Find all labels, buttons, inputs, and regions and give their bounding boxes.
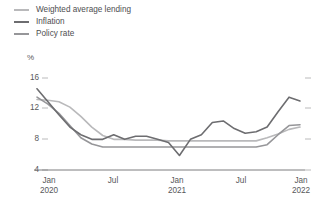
interest-rate-chart: Weighted average lending Inflation Polic… <box>0 0 324 205</box>
series-line-weighted-average-lending <box>37 99 300 140</box>
plot-area <box>0 0 324 205</box>
y-axis-ticks-right <box>305 78 311 170</box>
y-axis-ticks-left <box>42 78 48 170</box>
